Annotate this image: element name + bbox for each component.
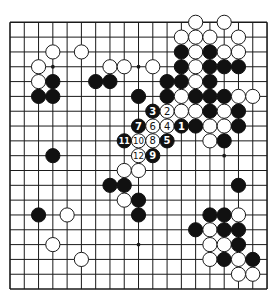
black-stone <box>46 89 60 103</box>
move-number: 9 <box>149 150 156 161</box>
stone-disc <box>231 208 245 222</box>
stone-disc <box>117 178 131 192</box>
stone-disc <box>46 89 60 103</box>
stone-disc <box>74 252 88 266</box>
star-point <box>137 243 141 247</box>
stone-disc <box>217 208 231 222</box>
black-stone <box>217 223 231 237</box>
star-point <box>51 65 55 69</box>
stone-disc <box>246 89 260 103</box>
white-stone: 8 <box>146 134 160 148</box>
white-stone <box>46 45 60 59</box>
black-stone: 11 <box>117 134 131 148</box>
stone-disc <box>131 163 145 177</box>
white-stone <box>231 252 245 266</box>
black-stone <box>174 74 188 88</box>
black-stone: 7 <box>131 119 145 133</box>
move-number: 6 <box>150 121 156 132</box>
stone-disc <box>217 104 231 118</box>
stone-disc <box>189 104 203 118</box>
black-stone <box>231 178 245 192</box>
black-stone: 9 <box>146 149 160 163</box>
white-stone <box>189 15 203 29</box>
white-stone <box>203 119 217 133</box>
black-stone <box>160 89 174 103</box>
black-stone <box>89 74 103 88</box>
white-stone <box>189 74 203 88</box>
stone-disc <box>103 60 117 74</box>
stone-disc <box>131 89 145 103</box>
black-stone <box>31 89 45 103</box>
white-stone <box>174 104 188 118</box>
stone-disc <box>31 60 45 74</box>
black-stone <box>217 208 231 222</box>
black-stone <box>131 208 145 222</box>
stone-disc <box>189 89 203 103</box>
black-stone <box>203 104 217 118</box>
black-stone <box>46 149 60 163</box>
black-stone <box>160 74 174 88</box>
stone-disc <box>217 238 231 252</box>
stone-disc <box>231 267 245 281</box>
stone-disc <box>217 134 231 148</box>
stone-disc <box>231 30 245 44</box>
stone-disc <box>89 74 103 88</box>
stone-disc <box>103 178 117 192</box>
white-stone <box>46 238 60 252</box>
stone-disc <box>31 89 45 103</box>
stone-disc <box>231 252 245 266</box>
stone-disc <box>246 267 260 281</box>
white-stone <box>74 252 88 266</box>
stone-disc <box>203 134 217 148</box>
stone-disc <box>117 163 131 177</box>
black-stone <box>189 223 203 237</box>
stone-disc <box>231 45 245 59</box>
move-number: 11 <box>119 137 130 146</box>
white-stone <box>231 208 245 222</box>
black-stone <box>231 60 245 74</box>
black-stone <box>103 74 117 88</box>
white-stone <box>203 30 217 44</box>
stone-disc <box>174 74 188 88</box>
black-stone <box>203 60 217 74</box>
black-stone <box>231 119 245 133</box>
white-stone <box>189 30 203 44</box>
move-number: 5 <box>164 135 171 146</box>
stones: 327641111085129 <box>31 15 259 281</box>
black-stone <box>231 238 245 252</box>
black-stone <box>131 193 145 207</box>
white-stone <box>117 163 131 177</box>
stone-disc <box>231 60 245 74</box>
stone-disc <box>46 74 60 88</box>
black-stone: 3 <box>146 104 160 118</box>
black-stone <box>231 223 245 237</box>
white-stone <box>217 15 231 29</box>
move-number: 10 <box>133 137 144 146</box>
white-stone <box>131 163 145 177</box>
stone-disc <box>174 60 188 74</box>
white-stone <box>174 30 188 44</box>
white-stone <box>231 30 245 44</box>
white-stone <box>174 89 188 103</box>
stone-disc <box>203 119 217 133</box>
white-stone <box>31 74 45 88</box>
stone-disc <box>131 193 145 207</box>
star-point <box>137 65 141 69</box>
white-stone <box>117 60 131 74</box>
white-stone: 10 <box>131 134 145 148</box>
stone-disc <box>217 252 231 266</box>
move-number: 1 <box>178 121 185 132</box>
white-stone <box>231 267 245 281</box>
stone-disc <box>203 252 217 266</box>
white-stone: 6 <box>146 119 160 133</box>
stone-disc <box>217 89 231 103</box>
black-stone <box>203 208 217 222</box>
stone-disc <box>203 74 217 88</box>
stone-disc <box>46 45 60 59</box>
black-stone <box>174 60 188 74</box>
black-stone <box>203 74 217 88</box>
white-stone <box>231 45 245 59</box>
move-number: 8 <box>150 135 156 146</box>
black-stone <box>46 74 60 88</box>
white-stone <box>246 267 260 281</box>
